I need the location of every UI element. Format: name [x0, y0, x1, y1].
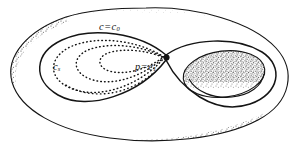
torus-figure: c=c0 cs p=c1	[0, 0, 304, 154]
label-c0-subscript: 0	[116, 25, 119, 32]
label-p-subscript: 1	[153, 65, 156, 72]
label-p-operator: =	[141, 61, 147, 72]
label-cs-base: c	[53, 61, 58, 72]
label-cs-subscript: s	[58, 65, 61, 72]
label-p-base: p	[135, 61, 140, 72]
level-curve-c0-label: c=c0	[99, 22, 120, 33]
label-c0-operator: =	[105, 21, 111, 32]
label-c0-base: c	[99, 21, 104, 32]
torus-drawing	[0, 0, 304, 154]
critical-point-label: p=c1	[135, 62, 156, 73]
level-curve-cs-label: cs	[53, 62, 60, 73]
